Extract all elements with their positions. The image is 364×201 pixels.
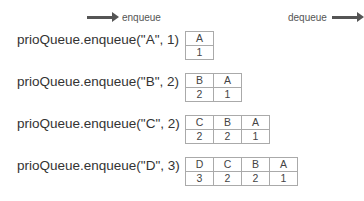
value-row: A (186, 32, 214, 46)
value-cell: A (270, 158, 298, 172)
dequeue-label: dequeue (288, 12, 327, 23)
enqueue-label: enqueue (122, 12, 161, 23)
value-row: DCBA (186, 158, 298, 172)
value-cell: D (186, 158, 214, 172)
queue-state-table: BA21 (185, 73, 242, 102)
value-cell: C (214, 158, 242, 172)
priority-cell: 1 (242, 130, 270, 144)
priority-cell: 2 (186, 88, 214, 102)
priority-row: 1 (186, 46, 214, 60)
value-cell: A (242, 116, 270, 130)
priority-cell: 2 (214, 130, 242, 144)
priority-cell: 1 (186, 46, 214, 60)
dequeue-direction: dequeue (288, 12, 361, 23)
value-cell: A (186, 32, 214, 46)
arrow-right-icon (332, 16, 358, 19)
enqueue-call-label: prioQueue.enqueue("A", 1) (17, 32, 179, 47)
value-cell: B (242, 158, 270, 172)
value-row: BA (186, 74, 242, 88)
priority-row: 21 (186, 88, 242, 102)
enqueue-call-label: prioQueue.enqueue("C", 2) (17, 116, 180, 131)
queue-state-table: CBA221 (185, 115, 270, 144)
priority-row: 3221 (186, 172, 298, 186)
arrow-right-icon (87, 16, 113, 19)
priority-cell: 2 (214, 172, 242, 186)
priority-cell: 1 (214, 88, 242, 102)
value-cell: A (214, 74, 242, 88)
value-cell: C (186, 116, 214, 130)
priority-row: 221 (186, 130, 270, 144)
priority-cell: 1 (270, 172, 298, 186)
enqueue-call-label: prioQueue.enqueue("D", 3) (17, 158, 180, 173)
priority-cell: 3 (186, 172, 214, 186)
value-cell: B (186, 74, 214, 88)
queue-state-table: DCBA3221 (185, 157, 298, 186)
value-row: CBA (186, 116, 270, 130)
priority-cell: 2 (186, 130, 214, 144)
enqueue-call-label: prioQueue.enqueue("B", 2) (17, 74, 179, 89)
enqueue-direction: enqueue (84, 12, 161, 23)
queue-state-table: A1 (185, 31, 214, 60)
priority-cell: 2 (242, 172, 270, 186)
value-cell: B (214, 116, 242, 130)
